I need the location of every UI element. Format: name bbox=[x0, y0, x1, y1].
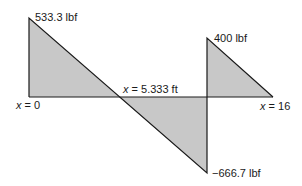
x-start-eq: = 0 bbox=[22, 99, 41, 111]
x-end-eq: = 16 bbox=[266, 100, 291, 112]
x-zero-crossing-label: x = 5.333 ft bbox=[123, 84, 178, 95]
x-start-label: x = 0 bbox=[16, 100, 40, 111]
min-value-label: −666.7 lbf bbox=[212, 168, 261, 179]
peak-right-label: 400 lbf bbox=[214, 33, 247, 44]
peak-left-label: 533.3 lbf bbox=[35, 12, 77, 23]
x-end-label: x = 16 bbox=[260, 101, 290, 112]
x-zero-eq: = 5.333 ft bbox=[129, 83, 178, 95]
